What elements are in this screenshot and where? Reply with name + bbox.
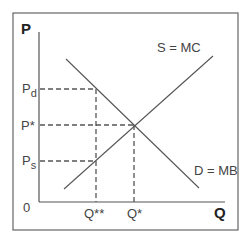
demand-label: D = MB (194, 163, 238, 178)
pstar-label: P* (21, 118, 35, 133)
qstar-label: Q* (127, 206, 142, 221)
demand-curve (66, 59, 199, 188)
x-axis-label: Q (214, 204, 226, 221)
supply-curve (64, 56, 213, 189)
ps-label: Ps (22, 153, 37, 171)
pd-label: Pd (22, 81, 37, 99)
y-axis-label: P (21, 20, 31, 37)
frame-border (13, 13, 238, 230)
qdoublestar-label: Q** (84, 206, 104, 221)
supply-demand-diagram: P Q 0 S = MC D = MB Pd P* Ps Q** Q* (0, 0, 251, 244)
origin-label: 0 (23, 200, 30, 215)
supply-label: S = MC (157, 40, 201, 55)
